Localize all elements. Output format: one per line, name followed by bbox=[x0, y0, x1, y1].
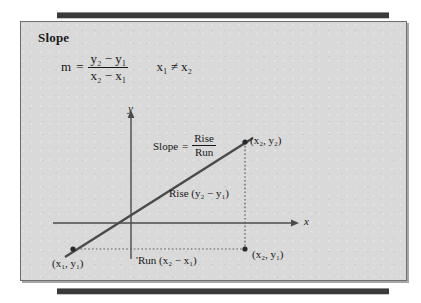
coordinate-graph: y x Slope = Rise Run Rise (y₂ − y₁) Run … bbox=[21, 22, 406, 280]
y-axis-label: y bbox=[128, 102, 133, 114]
run-denominator: Run bbox=[193, 146, 215, 158]
point-label-x1-y1: (x₁, y₁) bbox=[52, 257, 84, 269]
point-x2-y1-marker bbox=[242, 246, 247, 251]
slope-annotation-text: Slope bbox=[153, 140, 178, 152]
slope-annotation-equals: = bbox=[182, 140, 188, 152]
x-axis-arrowhead bbox=[291, 220, 299, 227]
x-axis-label: x bbox=[304, 215, 309, 227]
slope-figure-page: Slope m = y₂ − y₁ x₂ − x₁ x₁ ≠ x₂ bbox=[0, 0, 421, 303]
rise-label: Rise (y₂ − y₁) bbox=[169, 187, 229, 199]
slope-rise-over-run-annotation: Slope = Rise Run bbox=[153, 133, 216, 159]
rise-run-fraction: Rise Run bbox=[192, 133, 216, 159]
run-label: Run (x₂ − x₁) bbox=[138, 254, 197, 266]
slope-panel: Slope m = y₂ − y₁ x₂ − x₁ x₁ ≠ x₂ bbox=[20, 21, 407, 281]
point-x2-y2-marker bbox=[242, 139, 247, 144]
point-label-x2-y1: (x₂, y₁) bbox=[252, 248, 284, 260]
point-label-x2-y2: (x₂, y₂) bbox=[250, 134, 282, 146]
bottom-rule bbox=[57, 288, 389, 295]
top-rule bbox=[57, 12, 389, 19]
point-x1-y1-marker bbox=[70, 246, 75, 251]
rise-numerator: Rise bbox=[192, 133, 216, 145]
